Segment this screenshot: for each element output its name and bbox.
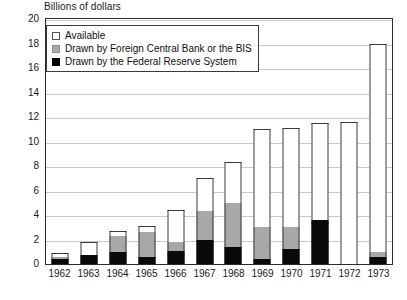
bar-1973[interactable] xyxy=(369,44,386,264)
x-axis-tick-1965: 1965 xyxy=(132,267,161,283)
bar-segment-available-1969 xyxy=(254,129,271,227)
bar-segment-available-1972 xyxy=(340,122,357,264)
bar-segment-bis-1968 xyxy=(225,203,242,247)
y-axis-tick-2: 2 xyxy=(1,235,39,245)
x-axis: 1962196319641965196619671968196919701971… xyxy=(45,267,393,283)
legend-label-bis: Drawn by Foreign Central Bank or the BIS xyxy=(65,43,252,54)
y-axis-tick-14: 14 xyxy=(1,88,39,98)
legend-item-available: Available xyxy=(52,29,252,42)
bar-slot-1972 xyxy=(334,19,363,264)
chart-legend: Available Drawn by Foreign Central Bank … xyxy=(46,25,259,72)
bar-1967[interactable] xyxy=(196,178,213,264)
bar-segment-available-1973 xyxy=(369,44,386,252)
y-axis: 20181614121086420 xyxy=(0,18,43,265)
bar-1969[interactable] xyxy=(254,129,271,264)
x-axis-tick-1964: 1964 xyxy=(103,267,132,283)
x-axis-tick-1963: 1963 xyxy=(74,267,103,283)
bar-segment-fed-1965 xyxy=(138,257,155,264)
x-axis-tick-1973: 1973 xyxy=(364,267,393,283)
bar-segment-available-1970 xyxy=(283,128,300,227)
bar-segment-fed-1967 xyxy=(196,240,213,265)
bar-segment-fed-1962 xyxy=(52,259,69,264)
legend-label-fed: Drawn by the Federal Reserve System xyxy=(65,56,237,67)
bar-1968[interactable] xyxy=(225,162,242,264)
y-axis-tick-16: 16 xyxy=(1,63,39,73)
bar-1970[interactable] xyxy=(283,128,300,264)
x-axis-tick-1962: 1962 xyxy=(45,267,74,283)
x-axis-tick-1966: 1966 xyxy=(161,267,190,283)
bis-swatch xyxy=(52,45,60,53)
x-axis-tick-1968: 1968 xyxy=(219,267,248,283)
bar-slot-1970 xyxy=(277,19,306,264)
bar-slot-1973 xyxy=(363,19,392,264)
bar-segment-bis-1967 xyxy=(196,211,213,239)
y-axis-tick-10: 10 xyxy=(1,137,39,147)
bar-segment-bis-1970 xyxy=(283,227,300,249)
fed-swatch xyxy=(52,58,60,66)
y-axis-tick-6: 6 xyxy=(1,186,39,196)
bar-1962[interactable] xyxy=(52,253,69,264)
x-axis-tick-1972: 1972 xyxy=(335,267,364,283)
bar-segment-bis-1965 xyxy=(138,232,155,257)
bar-segment-bis-1969 xyxy=(254,227,271,258)
chart-figure: Billions of dollars 20181614121086420 19… xyxy=(0,0,407,300)
bar-1965[interactable] xyxy=(138,226,155,264)
bar-1966[interactable] xyxy=(167,210,184,264)
y-axis-tick-0: 0 xyxy=(1,259,39,269)
bar-segment-available-1966 xyxy=(167,210,184,242)
bar-segment-fed-1968 xyxy=(225,247,242,264)
bar-segment-fed-1966 xyxy=(167,251,184,264)
bar-1972[interactable] xyxy=(340,122,357,264)
x-axis-tick-1969: 1969 xyxy=(248,267,277,283)
bar-segment-available-1963 xyxy=(81,242,98,255)
bar-segment-fed-1973 xyxy=(369,257,386,264)
bar-segment-bis-1964 xyxy=(110,236,127,252)
bar-1971[interactable] xyxy=(311,123,328,264)
chart-title: Billions of dollars xyxy=(44,1,121,12)
bar-segment-fed-1964 xyxy=(110,252,127,264)
legend-item-fed: Drawn by the Federal Reserve System xyxy=(52,55,252,68)
x-axis-tick-1971: 1971 xyxy=(306,267,335,283)
bar-segment-available-1968 xyxy=(225,162,242,202)
bar-segment-fed-1963 xyxy=(81,255,98,264)
x-axis-tick-1970: 1970 xyxy=(277,267,306,283)
bar-segment-available-1971 xyxy=(311,123,328,220)
bar-1964[interactable] xyxy=(110,231,127,264)
y-axis-tick-12: 12 xyxy=(1,112,39,122)
y-axis-tick-4: 4 xyxy=(1,210,39,220)
bar-1963[interactable] xyxy=(81,242,98,264)
y-axis-tick-8: 8 xyxy=(1,161,39,171)
bar-segment-bis-1966 xyxy=(167,242,184,251)
available-swatch xyxy=(52,32,60,40)
x-axis-tick-1967: 1967 xyxy=(190,267,219,283)
legend-label-available: Available xyxy=(65,30,105,41)
bar-segment-available-1967 xyxy=(196,178,213,211)
legend-item-bis: Drawn by Foreign Central Bank or the BIS xyxy=(52,42,252,55)
bar-slot-1971 xyxy=(305,19,334,264)
bar-segment-fed-1970 xyxy=(283,249,300,264)
bar-segment-fed-1971 xyxy=(311,220,328,264)
y-axis-tick-18: 18 xyxy=(1,39,39,49)
bar-segment-fed-1969 xyxy=(254,259,271,265)
y-axis-tick-20: 20 xyxy=(1,14,39,24)
figure-caption xyxy=(2,290,302,300)
